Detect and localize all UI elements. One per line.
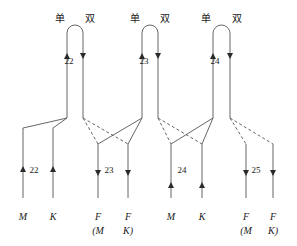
connector-dashed: [83, 118, 98, 144]
connector-group: [23, 118, 273, 144]
top-label: 双: [85, 14, 95, 24]
terminal-label-main: F: [240, 212, 252, 222]
top-label: 单: [130, 14, 140, 24]
arch-number: 22: [65, 57, 74, 66]
diagram-figure: 单双单双单双 222324 22232425 MKF(MFK)MKF(MFK): [0, 0, 297, 246]
terminal-label: K: [50, 212, 57, 222]
arch-path: [67, 25, 83, 118]
terminal-label: M: [19, 212, 27, 222]
connector-dashed: [158, 118, 202, 144]
terminal-label-sub: (M: [92, 226, 104, 236]
terminal-label: FK): [123, 212, 133, 236]
top-label: 单: [201, 14, 211, 24]
terminal-label-main: F: [123, 212, 133, 222]
top-label: 单: [55, 14, 65, 24]
branch-number: 25: [252, 166, 261, 175]
terminal-label-sub: (M: [240, 226, 252, 236]
top-label: 双: [232, 14, 242, 24]
stem-arrow-down: [95, 170, 101, 176]
arch-path: [213, 25, 230, 118]
stem-arrow-down: [270, 170, 276, 176]
arch-arrow-down: [227, 53, 233, 59]
arch-number: 23: [140, 57, 149, 66]
terminal-label-sub: K): [123, 226, 133, 236]
connector-dashed: [230, 118, 246, 144]
terminal-label: F(M: [92, 212, 104, 236]
terminal-label-main: F: [268, 212, 278, 222]
stem-arrow-up: [50, 166, 56, 172]
terminal-label: M: [167, 212, 175, 222]
diagram-canvas: [0, 0, 297, 246]
arch-arrow-down: [80, 53, 86, 59]
connector-dashed: [230, 118, 273, 144]
terminal-label-main: K: [199, 212, 206, 222]
stem-arrow-down: [243, 170, 249, 176]
top-label: 双: [160, 14, 170, 24]
stem-arrow-up: [168, 182, 174, 188]
stem-group: [20, 128, 276, 198]
branch-number: 23: [105, 166, 114, 175]
stem-arrow-up: [199, 182, 205, 188]
terminal-label-main: K: [50, 212, 57, 222]
terminal-label: FK): [268, 212, 278, 236]
terminal-label: F(M: [240, 212, 252, 236]
stem-arrow-down: [125, 170, 131, 176]
stem-arrow-up: [20, 166, 26, 172]
terminal-label-main: M: [167, 212, 175, 222]
arch-group: [64, 25, 233, 118]
terminal-label-main: F: [92, 212, 104, 222]
terminal-label: K: [199, 212, 206, 222]
branch-number: 22: [30, 166, 39, 175]
terminal-label-main: M: [19, 212, 27, 222]
connector-dashed: [83, 118, 128, 144]
arch-path: [142, 25, 158, 118]
terminal-label-sub: K): [268, 226, 278, 236]
connector-solid: [171, 118, 213, 144]
branch-number: 24: [178, 166, 187, 175]
arch-number: 24: [211, 57, 220, 66]
arch-arrow-down: [155, 53, 161, 59]
